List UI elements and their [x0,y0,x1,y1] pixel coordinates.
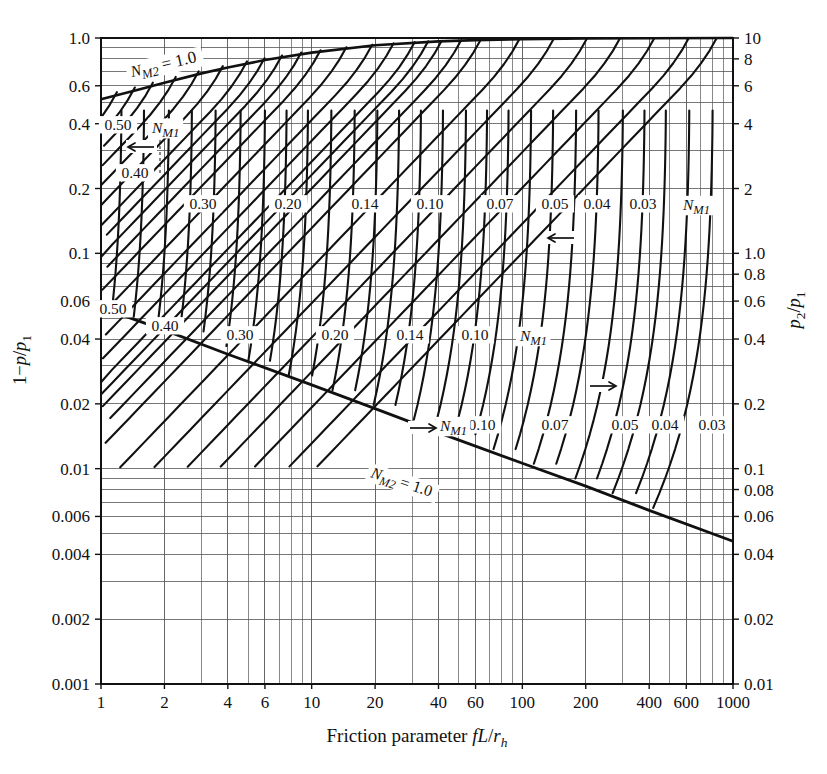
y-right-tick-label: 0.2 [744,395,765,414]
x-tick-label: 60 [467,693,484,712]
nm1-lower-label: 0.14 [396,326,423,343]
y-right-tick-label: 0.06 [744,507,774,526]
x-tick-label: 1000 [716,693,750,712]
x-tick-label: 600 [674,693,700,712]
x-tick-label: 2 [160,693,169,712]
y-right-tick-label: 0.1 [744,460,765,479]
x-tick-label: 100 [510,693,536,712]
x-tick-label: 4 [224,693,233,712]
friction-parameter-chart: 1246102040601002004006001000 1.00.60.40.… [0,0,827,774]
y-right-tick-label: 0.02 [744,610,774,629]
nm1-lower-label: 0.10 [461,326,488,343]
x-tick-label: 10 [303,693,320,712]
arrow-left-upper [126,140,157,153]
y-left-tick-label: 0.1 [69,244,90,263]
arrow-right-lower [408,421,439,434]
y-left-tick-label: 0.6 [69,77,90,96]
nm1-lower-label: 0.04 [651,416,678,433]
y-right-tick-label: 4 [744,115,753,134]
x-tick-label: 20 [367,693,384,712]
x-tick-label: 1 [97,693,106,712]
nm1-upper-label: 0.04 [583,195,610,212]
y-right-tick-label: 1.0 [744,244,765,263]
nm1-lower-label: 0.30 [226,326,253,343]
y-left-tick-label: 0.006 [52,507,90,526]
nm1-upper-label: 0.14 [351,195,378,212]
y-left-tick-label: 0.4 [69,115,91,134]
y-right-tick-label: 10 [744,29,761,48]
y-right-tick-label: 0.8 [744,265,765,284]
nm1-upper-label: 0.20 [274,195,301,212]
arrow-left-mid [546,231,577,244]
nm1-lower-label: 0.05 [611,416,638,433]
y-left-tick-label: 1.0 [69,29,90,48]
nm1-upper-label: 0.07 [486,195,513,212]
y-right-tick-label: 0.01 [744,675,774,694]
nm1-lower-label: 0.50 [99,300,126,317]
y-right-tick-label: 6 [744,77,753,96]
nm1-lower-label: 0.03 [698,416,725,433]
figure-root: 1246102040601002004006001000 1.00.60.40.… [0,0,827,774]
nm1-upper-label: 0.40 [121,164,148,181]
y-left-tick-label: 0.02 [60,395,90,414]
x-tick-label: 200 [573,693,599,712]
nm1-upper-label: 0.30 [189,195,216,212]
y-right-tick-label: 0.04 [744,545,774,564]
x-tick-label: 6 [261,693,270,712]
y-left-tick-label: 0.01 [60,460,90,479]
y-left-tick-label: 0.004 [52,545,91,564]
nm1-upper-label: 0.10 [416,195,443,212]
y-right-tick-label: 0.4 [744,330,766,349]
y-right-tick-label: 8 [744,50,753,69]
nm1-upper-label: 0.50 [104,116,131,133]
x-tick-label: 400 [636,693,662,712]
y-left-tick-label: 0.001 [52,675,90,694]
y-right-tick-label: 0.08 [744,481,774,500]
y-left-tick-label: 0.06 [60,292,90,311]
y-right-tick-label: 2 [744,180,753,199]
nm1-lower-label: 0.20 [321,326,348,343]
nm1-upper-label: 0.05 [541,195,568,212]
nm1-lower-label: 0.10 [468,416,495,433]
nm1-upper-label: 0.03 [629,195,656,212]
y-left-tick-label: 0.04 [60,330,90,349]
nm1-lower-label: 0.40 [151,317,178,334]
y-left-tick-label: 0.002 [52,610,90,629]
y-left-tick-label: 0.2 [69,180,90,199]
y-right-tick-label: 0.6 [744,292,765,311]
nm1-lower-label: 0.07 [541,416,568,433]
x-tick-label: 40 [430,693,447,712]
arrow-right-mid [588,379,619,392]
